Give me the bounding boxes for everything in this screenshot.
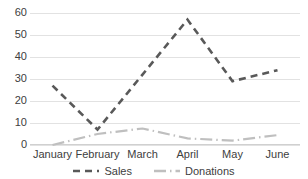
legend-swatch-donations-icon <box>154 167 180 175</box>
x-axis-tick-label: February <box>75 148 119 161</box>
y-axis-tick-label: 0 <box>0 139 27 150</box>
series-line-sales <box>53 20 278 130</box>
chart-title-cropped <box>0 0 308 4</box>
chart-legend: SalesDonations <box>0 163 308 179</box>
y-axis-tick-label: 20 <box>0 95 27 106</box>
x-axis-labels: JanuaryFebruaryMarchAprilMayJune <box>30 148 300 162</box>
legend-swatch-sales-icon <box>73 167 99 175</box>
x-axis-tick-label: April <box>176 148 198 161</box>
x-axis-tick-label: March <box>127 148 158 161</box>
y-axis-tick-label: 10 <box>0 117 27 128</box>
y-axis-labels: 0102030405060 <box>0 0 27 179</box>
series-layer <box>30 13 300 145</box>
legend-item-sales[interactable]: Sales <box>73 165 132 177</box>
legend-item-donations[interactable]: Donations <box>154 165 235 177</box>
x-axis-tick-label: June <box>266 148 290 161</box>
line-chart: 0102030405060 JanuaryFebruaryMarchAprilM… <box>0 0 308 179</box>
x-axis-tick-label: January <box>33 148 72 161</box>
legend-label: Donations <box>185 165 235 177</box>
y-axis-tick-label: 40 <box>0 51 27 62</box>
x-axis-tick-label: May <box>222 148 243 161</box>
y-axis-tick-label: 50 <box>0 29 27 40</box>
gridline <box>30 145 300 146</box>
y-axis-tick-label: 30 <box>0 73 27 84</box>
y-axis-tick-label: 60 <box>0 7 27 18</box>
plot-area <box>30 13 300 145</box>
series-line-donations <box>53 129 278 146</box>
legend-label: Sales <box>104 165 132 177</box>
